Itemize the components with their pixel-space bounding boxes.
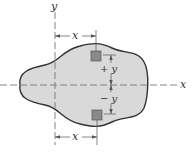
svg-text:x: x — [72, 130, 79, 143]
bottom-x-dimension: x — [55, 130, 97, 143]
x-axis-label: x — [180, 78, 187, 91]
svg-text:+ y: + y — [100, 63, 118, 74]
top-x-dimension: x — [55, 29, 96, 42]
y-axis-label: y — [50, 0, 58, 13]
lower-area-element — [92, 110, 102, 120]
svg-text:− y: − y — [100, 93, 118, 104]
svg-text:x: x — [72, 29, 79, 42]
upper-area-element — [91, 51, 101, 61]
symmetric-area-diagram: y x x x + y − y — [0, 0, 194, 152]
